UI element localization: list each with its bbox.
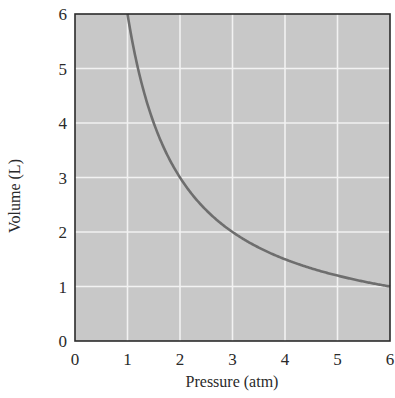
x-tick-label: 2 (176, 350, 185, 369)
y-tick-label: 0 (59, 332, 68, 351)
x-axis-label: Pressure (atm) (186, 373, 279, 391)
x-tick-label: 3 (228, 350, 237, 369)
x-tick-label: 5 (333, 350, 342, 369)
y-tick-label: 6 (59, 5, 68, 24)
y-axis-label: Volume (L) (6, 159, 24, 233)
x-tick-label: 4 (281, 350, 290, 369)
y-tick-label: 5 (59, 60, 68, 79)
y-tick-label: 4 (59, 114, 68, 133)
y-tick-label: 3 (59, 169, 68, 188)
y-axis-ticks: 0123456 (59, 5, 68, 351)
x-axis-ticks: 0123456 (71, 350, 395, 369)
y-tick-label: 2 (59, 223, 68, 242)
boyles-law-chart: 0123456 0123456 Pressure (atm) Volume (L… (0, 0, 395, 398)
x-tick-label: 1 (123, 350, 132, 369)
x-tick-label: 6 (386, 350, 395, 369)
y-tick-label: 1 (59, 278, 68, 297)
x-tick-label: 0 (71, 350, 80, 369)
